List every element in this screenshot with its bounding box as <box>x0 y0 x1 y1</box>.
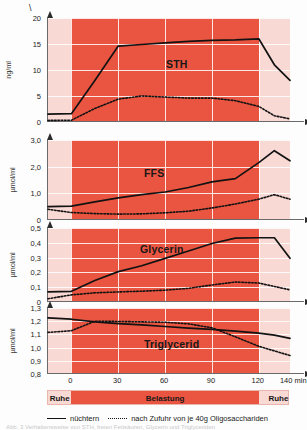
phase-label-rest-right: Ruhe <box>268 393 288 402</box>
y-tick-label: 0,8 <box>31 370 41 379</box>
y-tick-group: 0,80,91,01,11,21,3 <box>14 308 44 374</box>
y-axis-arrow-icon <box>47 133 53 140</box>
x-axis-tick-row: 0306090120140 min <box>47 376 289 388</box>
legend-label-fasting: nüchtern <box>70 414 99 423</box>
y-tick-label: 10 <box>33 66 41 75</box>
y-tick-label: 0,5 <box>31 224 41 233</box>
y-tick-label: 5 <box>37 92 41 101</box>
x-tick-label: 140 min <box>280 376 307 385</box>
y-tick-label: 0,3 <box>31 253 41 262</box>
x-tick-label: 0 <box>68 376 72 385</box>
panel-title: STH <box>166 58 188 70</box>
x-tick-label: 90 <box>207 376 215 385</box>
series-line-fasting <box>48 39 290 114</box>
y-tick-label: 20 <box>33 14 41 23</box>
phase-bar: Ruhe Belastung Ruhe <box>47 390 289 405</box>
legend-label-oligosaccharides: nach Zufuhr von je 40g Oligosacchariden <box>131 414 268 423</box>
x-axis-arrow-icon <box>305 217 307 223</box>
x-axis-arrow-icon <box>305 299 307 305</box>
series-line-fasting <box>48 151 290 207</box>
plot-area: STH <box>47 18 290 122</box>
x-tick-label: 60 <box>160 376 168 385</box>
y-tick-label: 2,0 <box>31 162 41 171</box>
y-axis-arrow-icon <box>47 221 53 228</box>
y-tick-group: 05101520 <box>14 18 44 122</box>
y-tick-label: 1,2 <box>31 317 41 326</box>
y-tick-label: 1,0 <box>31 343 41 352</box>
corner-mark: \ <box>29 4 32 13</box>
y-tick-label: 1,1 <box>31 330 41 339</box>
x-tick-label: 30 <box>113 376 121 385</box>
dotted-line-icon <box>108 418 127 419</box>
caption-ghost: Abb. 3 Verhaltensweise von STH, freien F… <box>6 424 301 430</box>
y-axis-arrow-icon <box>47 301 53 308</box>
solid-line-icon <box>47 418 66 419</box>
panel-title: Triglycerid <box>144 338 199 350</box>
phase-label-exercise: Belastung <box>146 393 185 402</box>
y-tick-label: 0,1 <box>31 283 41 292</box>
series-canvas <box>48 140 290 220</box>
legend-item-oligosaccharides: nach Zufuhr von je 40g Oligosacchariden <box>108 414 268 423</box>
y-axis-arrow-icon <box>47 11 53 18</box>
plot-area: Glycerin <box>47 228 290 302</box>
y-axis-label: ng/ml <box>4 61 13 78</box>
panel-glycerin: µmol/ml00,10,20,30,40,5Glycerin <box>0 228 300 302</box>
y-tick-group: 01,02,03,0 <box>14 140 44 220</box>
panel-triglycerid: µmol/ml0,80,91,01,11,21,3Triglycerid <box>0 308 300 374</box>
y-tick-label: 15 <box>33 40 41 49</box>
legend: nüchtern nach Zufuhr von je 40g Oligosac… <box>47 412 297 424</box>
y-tick-label: 1,0 <box>31 189 41 198</box>
series-canvas <box>48 18 290 122</box>
panel-ffs: µmol/ml01,02,03,0FFS <box>0 140 300 220</box>
y-tick-label: 0 <box>37 118 41 127</box>
y-tick-label: 0,9 <box>31 356 41 365</box>
panel-title: Glycerin <box>140 243 184 255</box>
panel-title: FFS <box>144 167 164 179</box>
panel-sth: ng/ml05101520STH <box>0 18 300 122</box>
y-tick-label: 0,2 <box>31 268 41 277</box>
y-tick-group: 00,10,20,30,40,5 <box>14 228 44 302</box>
x-axis-arrow-icon <box>305 119 307 125</box>
plot-area: Triglycerid <box>47 308 290 374</box>
y-tick-label: 3,0 <box>31 136 41 145</box>
series-canvas <box>48 228 290 302</box>
plot-area: FFS <box>47 140 290 220</box>
series-line-oligosaccharides <box>48 96 290 120</box>
x-tick-label: 120 <box>252 376 265 385</box>
y-tick-label: 1,3 <box>31 304 41 313</box>
y-tick-label: 0,4 <box>31 238 41 247</box>
phase-label-rest-left: Ruhe <box>50 393 70 402</box>
legend-item-fasting: nüchtern <box>47 414 99 423</box>
series-line-fasting <box>48 318 290 338</box>
figure-root: \ ng/ml05101520STHµmol/ml01,02,03,0FFSµm… <box>0 0 307 430</box>
